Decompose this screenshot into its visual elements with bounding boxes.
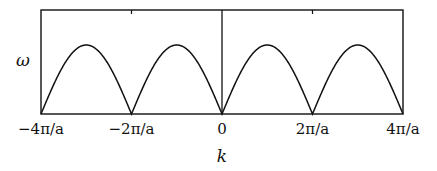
y-axis-label: ω bbox=[16, 50, 30, 70]
x-tick-label: 4π/a bbox=[386, 120, 419, 138]
x-axis-label: k bbox=[217, 146, 227, 166]
dispersion-chart: −4π/a −2π/a 0 2π/a 4π/a ω k bbox=[0, 0, 437, 171]
x-tick-label: −2π/a bbox=[109, 120, 155, 138]
x-tick-label: 2π/a bbox=[296, 120, 329, 138]
x-tick-label: 0 bbox=[217, 120, 227, 138]
x-tick-labels: −4π/a −2π/a 0 2π/a 4π/a bbox=[18, 120, 420, 138]
x-tick-label: −4π/a bbox=[18, 120, 64, 138]
